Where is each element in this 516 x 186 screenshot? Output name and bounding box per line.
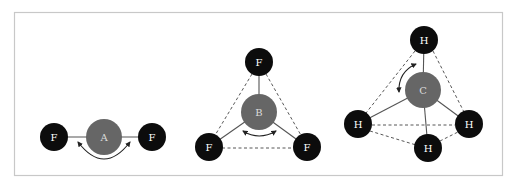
atom-central: A: [86, 119, 122, 155]
atom-label: F: [149, 132, 156, 143]
atom-label: A: [99, 132, 108, 143]
atom-label: F: [206, 142, 213, 153]
atom-outer-bottom-right: F: [293, 133, 321, 161]
atom-label: C: [419, 85, 427, 96]
atom-central: C: [405, 72, 441, 108]
atom-label: H: [465, 119, 474, 130]
atom-label: F: [51, 132, 58, 143]
atom-outer-top: F: [245, 48, 273, 76]
atom-outer-right: H: [455, 110, 483, 138]
atom-label: H: [420, 35, 429, 46]
atom-outer-top: H: [410, 26, 438, 54]
atom-central: B: [241, 94, 277, 130]
atom-label: F: [256, 57, 263, 68]
atom-outer-left: H: [344, 110, 372, 138]
atom-label: H: [354, 119, 363, 130]
atom-outer-right: F: [138, 123, 166, 151]
atom-outer-bottom-left: F: [195, 133, 223, 161]
molecular-geometry-diagram: F A F F B F F: [0, 0, 516, 186]
atom-outer-bottom: H: [414, 134, 442, 162]
atom-outer-left: F: [40, 123, 68, 151]
atom-label: F: [304, 142, 311, 153]
atom-label: B: [255, 107, 262, 118]
atom-label: H: [424, 143, 433, 154]
